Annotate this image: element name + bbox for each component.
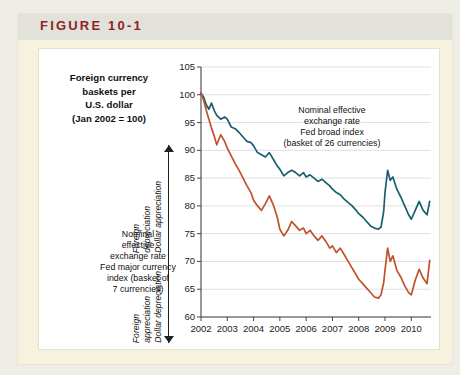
- y-tick-label: 85: [169, 172, 195, 183]
- y-tick-label: 60: [169, 311, 195, 322]
- y-tick-label: 105: [169, 61, 195, 72]
- y-tick-label: 90: [169, 144, 195, 155]
- y-tick-label: 95: [169, 117, 195, 128]
- y-tick-label: 80: [169, 200, 195, 211]
- major-annot-line-2: effective: [85, 240, 191, 251]
- y-tick-label: 100: [169, 89, 195, 100]
- broad-index-annotation: Nominal effective exchange rate Fed broa…: [267, 105, 397, 149]
- x-tick-label: 2010: [390, 323, 432, 334]
- chart-plot-area: 6065707580859095100105 20022003200420052…: [39, 49, 439, 349]
- broad-annot-line-3: Fed broad index: [267, 127, 397, 138]
- major-annot-line-6: 7 currencies): [85, 284, 191, 295]
- chart-svg: [39, 49, 439, 349]
- broad-annot-line-2: exchange rate: [267, 116, 397, 127]
- figure-card: FIGURE 10-1 Foreign currency baskets per…: [18, 14, 452, 364]
- figure-number-label: FIGURE 10-1: [40, 18, 143, 33]
- broad-annot-line-1: Nominal effective: [267, 105, 397, 116]
- figure-page: FIGURE 10-1 Foreign currency baskets per…: [0, 0, 460, 375]
- major-annot-line-5: index (basket of: [85, 273, 191, 284]
- plot-card: Foreign currency baskets per U.S. dollar…: [38, 48, 440, 350]
- broad-annot-line-4: (basket of 26 currencies): [267, 138, 397, 149]
- major-index-annotation: Nominal effective exchange rate Fed majo…: [85, 229, 191, 295]
- major-annot-line-4: Fed major currency: [85, 262, 191, 273]
- major-annot-line-1: Nominal: [85, 229, 191, 240]
- major-annot-line-3: exchange rate: [85, 251, 191, 262]
